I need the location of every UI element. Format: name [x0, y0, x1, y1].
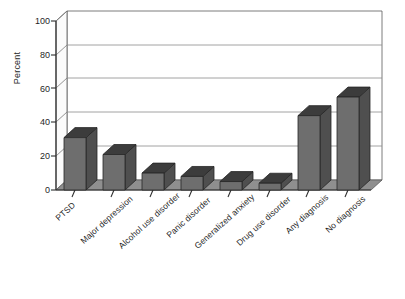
plot-svg: [0, 0, 405, 299]
bar-side-face: [320, 106, 331, 190]
bar-any-diagnosis: [298, 106, 331, 190]
bar-front-face: [220, 182, 242, 190]
bar-front-face: [181, 176, 203, 190]
bar-chart-figure: Percent 100 80 60 40 20 0: [0, 0, 405, 299]
x-axis-ticks: [72, 190, 348, 197]
bar-major-depression: [103, 145, 136, 190]
bar-front-face: [259, 183, 281, 190]
bar-side-face: [86, 128, 97, 190]
plot-area: PTSD Major depression Alcohol use disord…: [0, 0, 405, 299]
bar-front-face: [298, 116, 320, 190]
bar-no-diagnosis: [337, 87, 370, 190]
bar-front-face: [103, 155, 125, 190]
bar-front-face: [142, 173, 164, 190]
bar-front-face: [337, 97, 359, 190]
bar-ptsd: [64, 128, 97, 190]
y-axis-ticks: [51, 21, 56, 190]
bar-front-face: [64, 138, 86, 190]
bar-side-face: [359, 87, 370, 190]
